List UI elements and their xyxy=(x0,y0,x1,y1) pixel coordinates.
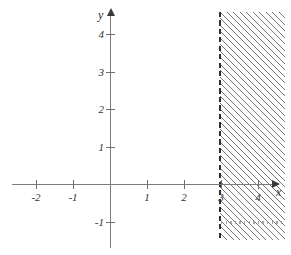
y-tick-neg1 xyxy=(106,222,115,223)
y-tick-label-neg1: -1 xyxy=(80,217,104,228)
x-tick-label-neg1: -1 xyxy=(63,192,83,203)
x-tick-label-4: 4 xyxy=(250,192,266,203)
x-tick-label-2: 2 xyxy=(176,192,192,203)
x-tick-3 xyxy=(221,180,222,189)
x-tick-2 xyxy=(184,180,185,189)
x-tick-neg1 xyxy=(73,180,74,189)
y-tick-1 xyxy=(106,147,115,148)
x-axis-line xyxy=(12,184,276,185)
y-axis-line xyxy=(110,13,111,248)
x-tick-1 xyxy=(147,180,148,189)
y-axis-label: y xyxy=(98,9,103,21)
y-tick-label-2: 2 xyxy=(84,104,104,115)
x-tick-label-3: 3 xyxy=(213,192,229,203)
y-tick-3 xyxy=(106,72,115,73)
y-tick-2 xyxy=(106,109,115,110)
x-tick-label-neg2: -2 xyxy=(26,192,46,203)
hatched-solution-region xyxy=(220,12,285,240)
x-tick-neg2 xyxy=(36,180,37,189)
x-tick-4 xyxy=(258,180,259,189)
x-axis-label: x xyxy=(276,186,281,198)
y-tick-label-1: 1 xyxy=(84,142,104,153)
y-tick-label-4: 4 xyxy=(84,29,104,40)
hatch-dotted-artifact xyxy=(221,221,284,224)
y-tick-4 xyxy=(106,34,115,35)
y-tick-label-3: 3 xyxy=(84,67,104,78)
plot-area: -2 -1 1 2 3 4 4 3 2 1 -1 x y xyxy=(0,0,291,255)
y-axis-arrow-icon xyxy=(107,8,115,16)
inequality-graph-figure: -2 -1 1 2 3 4 4 3 2 1 -1 x y xyxy=(0,0,291,255)
x-tick-label-1: 1 xyxy=(139,192,155,203)
dashed-boundary-line xyxy=(219,12,221,240)
